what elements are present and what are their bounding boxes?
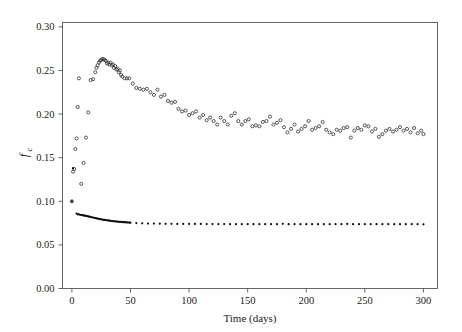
data-point-marker — [321, 120, 324, 123]
data-point-marker — [402, 129, 405, 132]
data-point-marker — [346, 126, 349, 129]
data-point-marker — [153, 223, 155, 225]
data-point-marker — [405, 223, 407, 225]
data-point-marker — [170, 223, 172, 225]
data-point-marker — [180, 110, 183, 113]
data-point-marker — [241, 223, 243, 225]
data-point-marker — [141, 222, 143, 224]
data-point-marker — [364, 223, 366, 225]
data-point-marker — [297, 130, 300, 133]
data-point-marker — [74, 147, 77, 150]
data-point-marker — [314, 126, 317, 129]
data-point-marker — [237, 120, 240, 123]
data-point-marker — [416, 132, 419, 135]
data-point-marker — [399, 223, 401, 225]
data-point-marker — [318, 125, 321, 128]
data-point-marker — [258, 223, 260, 225]
data-point-marker — [216, 123, 219, 126]
data-point-marker — [173, 100, 176, 103]
y-tick-label: 0.15 — [36, 152, 54, 163]
data-point-marker — [217, 223, 219, 225]
data-point-marker — [311, 223, 313, 225]
data-point-marker — [131, 82, 134, 85]
data-point-marker — [367, 125, 370, 128]
data-point-marker — [226, 123, 229, 126]
data-point-marker — [223, 120, 226, 123]
data-point-marker — [87, 111, 90, 114]
data-point-marker — [422, 223, 424, 225]
data-point-marker — [300, 127, 303, 130]
y-tick-label: 0.20 — [36, 109, 54, 120]
data-point-marker — [152, 93, 155, 96]
data-point-marker — [251, 125, 254, 128]
data-point-marker — [304, 125, 307, 128]
data-point-marker — [409, 131, 412, 134]
data-point-marker — [413, 126, 416, 129]
data-point-marker — [94, 71, 97, 74]
data-point-marker — [275, 121, 278, 124]
data-point-marker — [328, 131, 331, 134]
data-point-marker — [276, 223, 278, 225]
data-point-marker — [80, 182, 83, 185]
data-point-marker — [188, 113, 191, 116]
x-tick-label: 200 — [298, 295, 314, 306]
data-point-marker — [270, 223, 272, 225]
data-point-marker — [205, 119, 208, 122]
data-point-marker — [147, 222, 149, 224]
data-point-marker — [235, 223, 237, 225]
scatter-plot-figure: 0.000.050.100.150.200.250.30 05010015020… — [0, 0, 462, 332]
data-point-marker — [159, 95, 162, 98]
y-tick-label: 0.30 — [36, 21, 54, 32]
data-point-marker — [393, 223, 395, 225]
data-point-marker — [349, 136, 352, 139]
data-point-marker — [209, 116, 212, 119]
data-point-marker — [176, 223, 178, 225]
data-point-marker — [159, 223, 161, 225]
data-point-marker — [149, 91, 152, 94]
data-point-marker — [200, 223, 202, 225]
data-point-marker — [352, 223, 354, 225]
data-point-marker — [138, 87, 141, 90]
x-axis-ticks: 050100150200250300 — [69, 289, 431, 306]
x-tick-label: 250 — [357, 295, 373, 306]
data-point-marker — [71, 200, 73, 202]
data-point-marker — [335, 128, 338, 131]
data-point-marker — [188, 223, 190, 225]
data-point-marker — [177, 107, 180, 110]
data-point-marker — [194, 223, 196, 225]
data-point-marker — [384, 129, 387, 132]
data-point-marker — [191, 112, 194, 115]
data-point-marker — [170, 101, 173, 104]
data-point-marker — [264, 223, 266, 225]
data-point-marker — [258, 125, 261, 128]
data-point-marker — [305, 223, 307, 225]
data-point-marker — [381, 223, 383, 225]
data-point-marker — [135, 222, 137, 224]
data-point-marker — [233, 112, 236, 115]
data-point-marker — [244, 120, 247, 123]
data-point-marker — [247, 118, 250, 121]
data-point-marker — [293, 223, 295, 225]
data-point-marker — [311, 128, 314, 131]
data-point-marker — [381, 133, 384, 136]
data-point-marker — [219, 116, 222, 119]
x-tick-label: 150 — [240, 295, 256, 306]
data-point-marker — [329, 223, 331, 225]
data-point-marker — [342, 126, 345, 129]
data-point-marker — [82, 161, 85, 164]
data-point-marker — [184, 109, 187, 112]
data-point-marker — [75, 137, 78, 140]
data-point-marker — [182, 223, 184, 225]
data-point-marker — [325, 128, 328, 131]
y-axis-title-main: f — [17, 152, 31, 157]
data-point-marker — [211, 223, 213, 225]
data-point-marker — [230, 114, 233, 117]
plot-frame — [63, 23, 438, 289]
data-point-marker — [360, 128, 363, 131]
data-point-marker — [370, 130, 373, 133]
data-point-marker — [165, 223, 167, 225]
x-tick-label: 0 — [69, 295, 74, 306]
x-tick-label: 300 — [416, 295, 432, 306]
y-axis-title-subscript: c — [25, 148, 34, 152]
data-point-marker — [265, 120, 268, 123]
